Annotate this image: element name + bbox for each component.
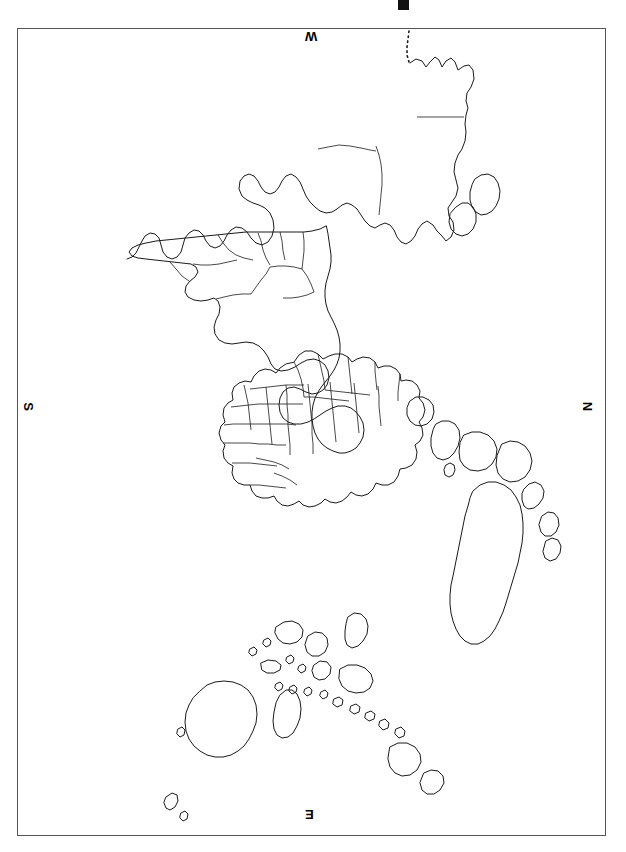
island-small-5 bbox=[304, 687, 312, 696]
eu-af-border-19 bbox=[256, 458, 289, 469]
eu-af-border-8 bbox=[224, 424, 296, 425]
island-small-1 bbox=[286, 655, 294, 664]
eu-af-border-11 bbox=[250, 485, 286, 488]
sa-border-6 bbox=[170, 262, 189, 281]
sa-border-4 bbox=[218, 235, 253, 260]
eu-af-border-21 bbox=[304, 397, 349, 401]
world-map-graphic bbox=[18, 29, 605, 835]
australia-outline bbox=[450, 482, 523, 644]
north-america-internal-border-3 bbox=[318, 145, 376, 151]
africa-europe-outline bbox=[219, 351, 425, 507]
map-frame bbox=[17, 28, 606, 836]
north-america-outline bbox=[127, 57, 474, 259]
madagascar-outline bbox=[273, 690, 301, 738]
eu-af-border-14 bbox=[286, 385, 290, 455]
small-island-south-1 bbox=[164, 793, 178, 810]
island-small-7 bbox=[333, 697, 343, 707]
sa-border-11 bbox=[283, 292, 314, 298]
top-registration-mark bbox=[398, 0, 409, 10]
map-sheet: W E S N bbox=[0, 0, 626, 852]
island-new-guinea bbox=[339, 665, 373, 693]
island-sulawesi bbox=[312, 661, 331, 680]
eu-af-border-5 bbox=[398, 374, 400, 401]
island-small-2 bbox=[298, 664, 306, 673]
eu-af-border-7 bbox=[231, 404, 303, 407]
eu-af-border-9 bbox=[223, 443, 286, 445]
sa-border-9 bbox=[270, 266, 302, 269]
compass-label-west: W bbox=[305, 30, 317, 43]
north-america-internal-border-2 bbox=[376, 146, 382, 215]
sa-border-1 bbox=[258, 233, 270, 265]
east-asia-landmass bbox=[496, 441, 532, 482]
southern-tail-island-1 bbox=[388, 743, 421, 776]
new-zealand-north bbox=[539, 512, 559, 536]
sa-border-8 bbox=[251, 267, 270, 294]
philippines-arc bbox=[345, 613, 368, 648]
island-small-3 bbox=[275, 682, 283, 691]
island-borneo bbox=[305, 632, 328, 656]
island-small-9 bbox=[365, 711, 375, 721]
eu-af-border-22 bbox=[325, 390, 370, 395]
sa-border-7 bbox=[216, 294, 251, 299]
southern-tail-island-2 bbox=[420, 770, 444, 794]
southeast-asia-mainland bbox=[459, 432, 497, 471]
compass-label-north: N bbox=[581, 402, 594, 411]
india-peninsula bbox=[431, 421, 460, 460]
sa-border-10 bbox=[302, 269, 314, 292]
sri-lanka-island bbox=[444, 463, 455, 477]
southern-africa-outline bbox=[185, 681, 257, 757]
island-small-13 bbox=[249, 647, 257, 656]
eu-af-border-18 bbox=[378, 386, 381, 426]
island-small-12 bbox=[263, 638, 271, 647]
island-small-11 bbox=[395, 727, 405, 738]
sa-border-2 bbox=[280, 232, 285, 260]
south-america-outline bbox=[129, 226, 364, 453]
island-java bbox=[261, 660, 281, 673]
eu-af-border-2 bbox=[318, 354, 325, 390]
island-small-10 bbox=[379, 719, 389, 730]
japan-arc bbox=[522, 482, 544, 509]
eu-af-border-10 bbox=[232, 463, 277, 466]
new-zealand-south bbox=[543, 538, 561, 561]
compass-label-south: S bbox=[22, 402, 35, 411]
small-island-west-1 bbox=[177, 727, 185, 737]
sa-border-3 bbox=[302, 232, 304, 269]
island-sumatra bbox=[275, 621, 303, 644]
compass-label-east: E bbox=[305, 808, 314, 821]
eu-af-border-13 bbox=[266, 387, 272, 444]
greenland-outline bbox=[470, 174, 500, 215]
arabian-peninsula bbox=[407, 397, 434, 426]
sa-border-5 bbox=[193, 260, 237, 265]
eu-af-border-12 bbox=[244, 385, 251, 430]
small-island-south-2 bbox=[180, 811, 188, 821]
eu-af-border-6 bbox=[250, 385, 304, 389]
greenland-lower-lobe bbox=[449, 203, 476, 236]
eu-af-border-3 bbox=[348, 357, 352, 394]
island-small-6 bbox=[320, 690, 328, 699]
island-small-8 bbox=[350, 704, 360, 714]
dotted-boundary-line bbox=[407, 31, 409, 62]
eu-af-border-20 bbox=[274, 473, 297, 485]
eu-af-border-17 bbox=[354, 383, 359, 433]
